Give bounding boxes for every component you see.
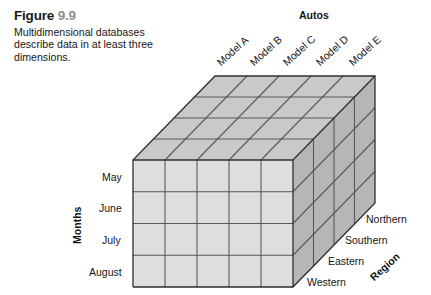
figure-canvas: Figure 9.9 Multidimensional databases de… [0, 0, 431, 295]
axis-title-autos: Autos [299, 10, 329, 21]
axis-tick-months-june: June [99, 203, 122, 214]
axis-title-months: Months [72, 203, 83, 247]
axis-tick-months-august: August [89, 267, 122, 278]
axis-tick-region-western: Western [307, 277, 346, 288]
axis-tick-months-july: July [102, 235, 121, 246]
axis-tick-region-northern: Northern [366, 214, 407, 225]
axis-tick-region-eastern: Eastern [328, 256, 364, 267]
axis-tick-months-may: May [102, 172, 122, 183]
axis-tick-region-southern: Southern [345, 235, 388, 246]
